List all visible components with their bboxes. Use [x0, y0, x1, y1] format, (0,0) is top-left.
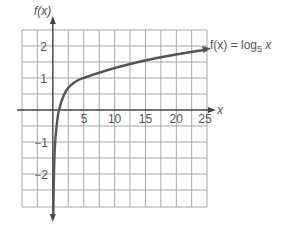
y-axis-arrow-down-icon: [50, 214, 56, 222]
function-label: f(x) = log5 x: [210, 38, 272, 54]
y-axis-label: f(x): [34, 4, 51, 18]
function-label-prefix: f(x) = log: [210, 38, 257, 52]
x-tick-label: 20: [170, 112, 184, 126]
x-tick-label: 15: [139, 112, 153, 126]
function-label-var: x: [262, 38, 272, 52]
y-tick-label: −1: [34, 136, 48, 150]
log-curve: [53, 50, 204, 214]
x-tick-label: 10: [108, 112, 122, 126]
x-tick-label: 5: [81, 112, 88, 126]
log-chart: 5 10 15 20 25 2 1 −1 −2 f(x) x f(x) = lo…: [0, 0, 286, 226]
y-tick-label: 1: [40, 72, 47, 86]
y-tick-labels: 2 1 −1 −2: [34, 40, 48, 182]
y-tick-label: 2: [40, 40, 47, 54]
y-tick-label: −2: [34, 168, 48, 182]
x-tick-label: 25: [198, 112, 212, 126]
x-tick-labels: 5 10 15 20 25: [81, 112, 212, 126]
x-axis-label: x: [216, 103, 224, 117]
